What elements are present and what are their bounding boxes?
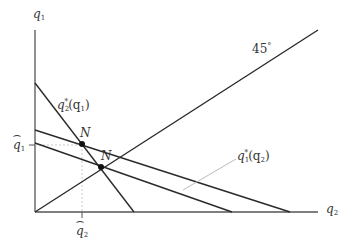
q1-hat-sub: 1 [21, 145, 25, 153]
cournot-reaction-diagram [0, 0, 352, 248]
q2-hat-label: q2 [76, 225, 88, 239]
y-axis-label: q1 [33, 8, 45, 22]
x-axis-label: q2 [326, 203, 338, 217]
45-degree-line [35, 30, 318, 212]
reaction-label-q1-close: ) [265, 149, 270, 163]
point-label-N-lower: N [101, 150, 112, 162]
reaction-line-q1-of-q2-lower [35, 143, 232, 212]
reaction-line-q1-of-q2-upper [35, 130, 290, 212]
reaction-label-q2-close: ) [85, 98, 90, 112]
reaction-label-q2-of-q1: q2*(q1) [57, 98, 90, 113]
q1-hat-var: q [13, 139, 21, 151]
equilibrium-point-lower [98, 164, 104, 170]
45-degree-label: 45° [252, 42, 271, 55]
q1-hat-label: q1 [13, 139, 25, 153]
point-label-N-upper: N [80, 127, 91, 139]
y-axis-label-sub: 1 [41, 14, 45, 22]
q2-hat-var: q [76, 225, 84, 237]
equilibrium-point-upper [79, 141, 85, 147]
degree-symbol: ° [267, 41, 271, 50]
45-degree-label-value: 45 [252, 42, 267, 56]
x-axis-label-sub: 2 [334, 209, 338, 217]
x-axis-label-text: q [326, 202, 334, 216]
y-axis-label-text: q [33, 7, 41, 21]
reaction-label-q1-arg: (q [248, 149, 260, 163]
reaction-label-q2-arg: (q [68, 98, 80, 112]
q2-hat-sub: 2 [84, 231, 88, 239]
leader-line [183, 159, 236, 190]
reaction-label-q1-of-q2: q1*(q2) [237, 149, 270, 164]
